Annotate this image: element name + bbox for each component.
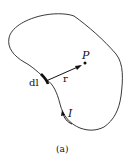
- caption: (a): [56, 145, 68, 154]
- current-arrowhead-icon: [61, 110, 65, 116]
- point-p-label: P: [82, 50, 89, 61]
- dl-label: dl: [29, 78, 39, 88]
- arrowhead-icon: [75, 65, 82, 70]
- vector-r-label: r: [63, 74, 68, 84]
- current-i-label: I: [68, 108, 72, 119]
- dl-segment: [41, 74, 48, 84]
